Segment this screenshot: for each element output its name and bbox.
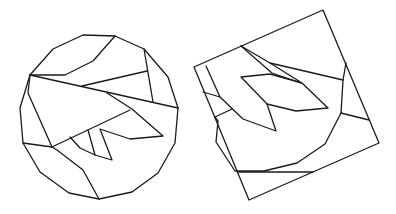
left-dissected-circle-edge-10 xyxy=(52,147,99,199)
left-dissected-circle xyxy=(20,35,178,199)
right-dissected-square-edge-2 xyxy=(241,46,328,111)
dissection-diagram xyxy=(0,0,396,214)
left-dissected-circle-edge-1 xyxy=(30,36,115,75)
left-dissected-circle-edge-6 xyxy=(23,143,52,147)
left-dissected-circle-edge-9 xyxy=(88,130,95,155)
left-dissected-circle-edge-2 xyxy=(30,75,178,108)
left-dissected-circle-edge-0 xyxy=(20,35,178,199)
left-dissected-circle-edge-8 xyxy=(70,93,163,160)
right-dissected-square xyxy=(194,10,379,200)
diagram-canvas xyxy=(0,0,396,214)
left-dissected-circle-edge-5 xyxy=(28,75,52,147)
right-dissected-square-edge-6 xyxy=(341,113,369,120)
left-dissected-circle-edge-4 xyxy=(82,71,147,86)
right-dissected-square-edge-5 xyxy=(215,63,346,171)
right-dissected-square-edge-8 xyxy=(215,109,232,117)
